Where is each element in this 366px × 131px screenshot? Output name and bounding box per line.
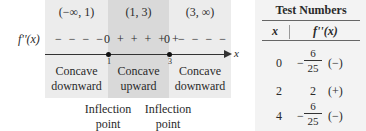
- table-cell-sign: (+): [328, 84, 343, 99]
- inflection-line: point: [140, 117, 196, 131]
- table-title: Test Numbers: [262, 3, 360, 18]
- zero-value: 0: [164, 32, 172, 47]
- table-cell-x: 4: [276, 109, 282, 124]
- minus-sign: −: [297, 56, 304, 71]
- numerator: 6: [304, 100, 322, 112]
- inflection-line: point: [80, 117, 136, 131]
- numerator: 6: [304, 47, 322, 59]
- minus-sign: −: [297, 109, 304, 124]
- interval-label: (3, ∞): [169, 5, 231, 20]
- inflection-line: Inflection: [80, 102, 136, 117]
- table-rule: [262, 40, 360, 41]
- sign-negative: − − − −: [55, 32, 105, 47]
- interval-label: (1, 3): [108, 5, 169, 20]
- fraction-bar: [304, 60, 322, 61]
- concavity-line: Concave: [108, 64, 169, 79]
- function-label: f''(x): [18, 32, 40, 47]
- fraction-bar: [304, 113, 322, 114]
- denominator: 25: [304, 115, 322, 127]
- concavity-line: downward: [169, 79, 231, 94]
- concavity-line: upward: [108, 79, 169, 94]
- concavity-label: Concave downward: [45, 64, 108, 94]
- table-cell-x: 0: [276, 56, 282, 71]
- inflection-point-label: Inflection point: [140, 102, 196, 131]
- axis-label: x: [234, 47, 239, 59]
- denominator: 25: [304, 62, 322, 74]
- inflection-line: Inflection: [140, 102, 196, 117]
- table-cell-sign: (−): [328, 109, 343, 124]
- fraction: 6 25: [304, 47, 322, 74]
- axis-arrow-icon: [224, 50, 232, 58]
- column-header-x: x: [272, 24, 278, 39]
- table-cell-value: 2: [310, 84, 316, 99]
- concavity-line: downward: [45, 79, 108, 94]
- table-rule: [262, 20, 360, 21]
- interval-label: (−∞, 1): [45, 5, 108, 20]
- table-cell-sign: (−): [328, 56, 343, 71]
- column-header-fpp: f''(x): [313, 24, 338, 39]
- concavity-line: Concave: [169, 64, 231, 79]
- table-cell-x: 2: [276, 84, 282, 99]
- x-axis: [45, 54, 225, 55]
- fraction: 6 25: [304, 100, 322, 127]
- table-column-divider: [289, 25, 290, 39]
- concavity-line: Concave: [45, 64, 108, 79]
- sign-negative: − − − −: [178, 32, 228, 47]
- zero-value: 0: [104, 32, 112, 47]
- concavity-label: Concave downward: [169, 64, 231, 94]
- concavity-label: Concave upward: [108, 64, 169, 94]
- inflection-point-label: Inflection point: [80, 102, 136, 131]
